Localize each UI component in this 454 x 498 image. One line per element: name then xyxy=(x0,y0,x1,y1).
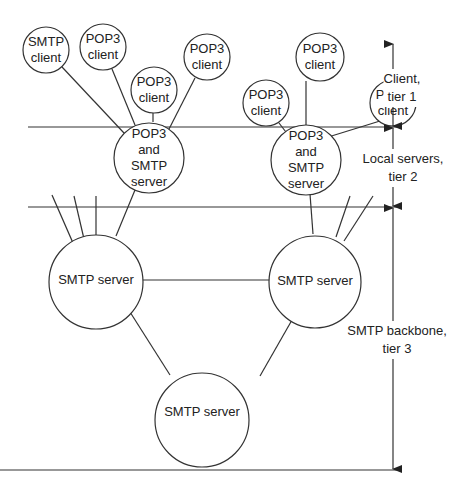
local-server-label-2: POP3andSMTPserver xyxy=(288,128,324,192)
tier2-label: Local servers,tier 2 xyxy=(363,149,444,187)
client-label-4: POP3client xyxy=(190,41,225,73)
smtp-tier-diagram: SMTPclient POP3client POP3client POP3cli… xyxy=(0,0,454,498)
local-server-label-1: POP3andSMTPserver xyxy=(131,126,167,190)
backbone-server-label-3: SMTP server xyxy=(164,404,240,420)
client-label-6: POP3client xyxy=(303,41,338,73)
tier1-label: Client,tier 1 xyxy=(384,69,421,107)
client-label-3: POP3client xyxy=(137,74,172,106)
client-label-1: SMTPclient xyxy=(28,34,64,66)
client-label-5: POP3client xyxy=(249,87,284,119)
backbone-server-label-2: SMTP server xyxy=(277,273,353,289)
client-label-2: POP3client xyxy=(86,31,121,63)
tier3-label: SMTP backbone,tier 3 xyxy=(347,321,446,359)
backbone-server-node-3 xyxy=(155,373,249,467)
backbone-server-label-1: SMTP server xyxy=(58,272,134,288)
